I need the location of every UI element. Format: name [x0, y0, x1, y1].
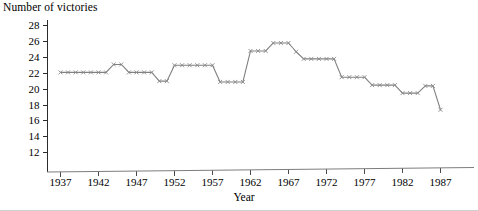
y-tick-label-18: 18	[14, 100, 40, 111]
x-axis-title-text: Year	[233, 191, 254, 203]
x-axis-title: Year	[0, 191, 478, 204]
x-tick-label-1957: 1957	[193, 177, 233, 188]
x-tick-label-1962: 1962	[231, 177, 271, 188]
x-tick-label-1937: 1937	[41, 177, 81, 188]
y-tick-label-12: 12	[14, 147, 40, 158]
y-tick-label-16: 16	[14, 115, 40, 126]
y-tick-label-26: 26	[14, 36, 40, 47]
bottom-rule	[0, 210, 478, 211]
series-line-victories	[61, 43, 441, 110]
x-tick-label-1967: 1967	[269, 177, 309, 188]
x-tick-label-1982: 1982	[383, 177, 423, 188]
x-tick-label-1947: 1947	[117, 177, 157, 188]
y-tick-label-20: 20	[14, 84, 40, 95]
y-tick-label-28: 28	[14, 20, 40, 31]
x-tick-label-1972: 1972	[307, 177, 347, 188]
y-tick-label-24: 24	[14, 52, 40, 63]
x-tick-label-1987: 1987	[421, 177, 461, 188]
x-axis-line	[47, 168, 474, 173]
x-tick-label-1977: 1977	[345, 177, 385, 188]
x-tick-label-1952: 1952	[155, 177, 195, 188]
data-point-1968	[294, 50, 298, 54]
line-chart: Number of victories 121416182022242628 1…	[0, 0, 478, 211]
y-tick-label-14: 14	[14, 131, 40, 142]
x-tick-label-1942: 1942	[79, 177, 119, 188]
y-tick-label-22: 22	[14, 68, 40, 79]
y-axis-ticks	[43, 26, 48, 153]
